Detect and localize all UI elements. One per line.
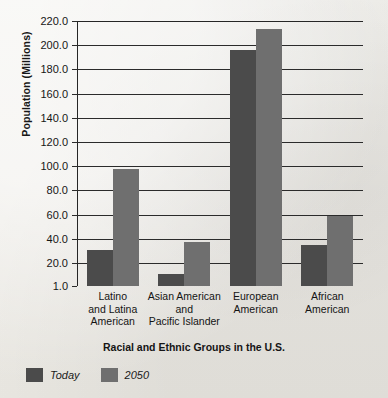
bar-today xyxy=(230,50,256,286)
chart-legend: Today 2050 xyxy=(26,368,149,382)
bar-chart: Population (Millions) 220.0200.0180.0160… xyxy=(0,0,388,398)
x-axis-category-label: AfricanAmerican xyxy=(286,290,370,315)
legend-swatch-today xyxy=(26,368,43,382)
bar-today xyxy=(87,250,113,286)
y-axis-tick xyxy=(72,286,77,287)
y-axis-tick-label: 40.0 xyxy=(47,233,68,244)
y-axis-tick-label: 80.0 xyxy=(47,185,68,196)
y-axis-tick-label: 200.0 xyxy=(40,40,68,51)
y-axis-tick-label: 180.0 xyxy=(40,64,68,75)
legend-swatch-2050 xyxy=(101,368,118,382)
bar-today xyxy=(301,245,327,286)
x-axis-title: Racial and Ethnic Groups in the U.S. xyxy=(0,341,388,353)
bar-2050 xyxy=(327,216,353,286)
bar-2050 xyxy=(256,29,282,286)
legend-item-2050: 2050 xyxy=(101,368,149,382)
category-label-line: African xyxy=(286,290,370,303)
y-axis-tick-labels: 220.0200.0180.0160.0140.0120.0100.080.06… xyxy=(0,21,72,286)
y-axis-tick-label: 1.0 xyxy=(53,281,68,292)
legend-item-today: Today xyxy=(26,368,80,382)
y-axis-tick-label: 20.0 xyxy=(47,258,68,269)
y-axis-tick-label: 160.0 xyxy=(40,88,68,99)
y-axis-tick-label: 140.0 xyxy=(40,112,68,123)
legend-label-today: Today xyxy=(50,369,80,381)
bar-2050 xyxy=(184,242,210,286)
bar-2050 xyxy=(113,169,139,286)
bar-series-group xyxy=(77,21,363,286)
x-axis-category-labels: Latinoand LatinaAmericanAsian Americanan… xyxy=(77,290,363,336)
category-label-line: American xyxy=(286,303,370,316)
bar-today xyxy=(158,274,184,286)
y-axis-tick-label: 120.0 xyxy=(40,137,68,148)
plot-area xyxy=(77,21,363,286)
y-axis-tick-label: 100.0 xyxy=(40,161,68,172)
y-axis-tick-label: 60.0 xyxy=(47,209,68,220)
legend-label-2050: 2050 xyxy=(125,369,149,381)
category-label-line: Pacific Islander xyxy=(143,315,227,328)
y-axis-tick-label: 220.0 xyxy=(40,16,68,27)
